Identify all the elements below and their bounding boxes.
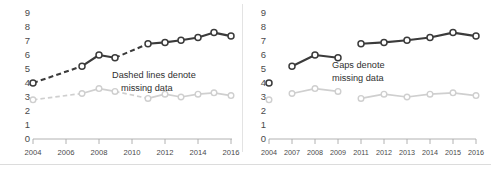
right-chart-svg: 9 8 7 6 5 4 3 2 1 0	[244, 0, 491, 173]
x-tick-2008: 2008	[91, 148, 108, 157]
y-tick-7: 7	[261, 35, 266, 46]
x-tick-2010: 2010	[124, 148, 141, 157]
left-x-axis	[33, 139, 232, 144]
y-tick-4: 4	[25, 77, 30, 88]
left-annotation: Dashed lines denote missing data	[112, 70, 196, 93]
y-tick-9: 9	[25, 7, 30, 18]
x-tick-2009: 2009	[330, 148, 346, 157]
y-tick-3: 3	[261, 91, 266, 102]
y-tick-5: 5	[25, 63, 30, 74]
x-tick-2008: 2008	[307, 148, 323, 157]
y-tick-2: 2	[261, 105, 266, 116]
y-tick-1: 1	[261, 119, 266, 130]
y-tick-4: 4	[261, 77, 266, 88]
x-tick-2016: 2016	[223, 148, 240, 157]
x-tick-2012: 2012	[157, 148, 174, 157]
annotation-line-2: missing data	[121, 83, 173, 93]
x-tick-2007: 2007	[284, 148, 300, 157]
y-tick-6: 6	[25, 49, 30, 60]
left-chart-svg: 9 8 7 6 5 4 3 2 1 0	[0, 0, 240, 173]
x-tick-2004: 2004	[261, 148, 277, 157]
y-tick-8: 8	[261, 21, 266, 32]
x-tick-2016: 2016	[468, 148, 484, 157]
y-tick-7: 7	[25, 35, 30, 46]
annotation-line-1: Gaps denote	[332, 60, 385, 70]
y-tick-0: 0	[25, 133, 30, 144]
panel-divider	[242, 4, 243, 152]
y-tick-3: 3	[25, 91, 30, 102]
x-tick-2015: 2015	[445, 148, 461, 157]
x-tick-2014: 2014	[190, 148, 207, 157]
y-tick-2: 2	[25, 105, 30, 116]
y-tick-9: 9	[261, 7, 266, 18]
y-tick-0: 0	[261, 133, 266, 144]
chart-panel-right: 9 8 7 6 5 4 3 2 1 0	[244, 0, 491, 173]
x-tick-2013: 2013	[399, 148, 415, 157]
bottom-rule	[0, 164, 491, 165]
y-tick-1: 1	[25, 119, 30, 130]
y-tick-8: 8	[25, 21, 30, 32]
x-tick-2011: 2011	[353, 148, 368, 157]
x-tick-2014: 2014	[422, 148, 438, 157]
right-x-axis-labels: 2004 2007 2008 2009 2011 2012 2013 2014 …	[261, 148, 484, 157]
x-tick-2012: 2012	[376, 148, 392, 157]
right-x-axis	[269, 139, 476, 144]
x-tick-2006: 2006	[58, 148, 75, 157]
annotation-line-2: missing data	[332, 73, 384, 83]
left-y-axis-labels: 9 8 7 6 5 4 3 2 1 0	[25, 7, 30, 144]
y-tick-5: 5	[261, 63, 266, 74]
chart-panel-left: 9 8 7 6 5 4 3 2 1 0	[0, 0, 240, 173]
right-y-axis-labels: 9 8 7 6 5 4 3 2 1 0	[261, 7, 266, 144]
figure-root: 9 8 7 6 5 4 3 2 1 0	[0, 0, 491, 173]
y-tick-6: 6	[261, 49, 266, 60]
annotation-line-1: Dashed lines denote	[112, 70, 196, 80]
left-x-axis-labels: 2004 2006 2008 2010 2012 2014 2016	[25, 148, 240, 157]
right-annotation: Gaps denote missing data	[332, 60, 385, 83]
x-tick-2004: 2004	[25, 148, 42, 157]
